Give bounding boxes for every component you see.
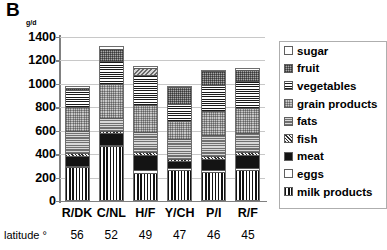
panel-title: B bbox=[6, 0, 20, 20]
legend-item-fish[interactable]: fish bbox=[280, 130, 386, 148]
bar-segment[interactable] bbox=[100, 147, 123, 200]
bar-segment[interactable] bbox=[134, 133, 157, 154]
legend-item-meat[interactable]: meat bbox=[280, 148, 386, 166]
legend-item-eggs[interactable]: eggs bbox=[280, 165, 386, 183]
bar-segment[interactable] bbox=[202, 136, 225, 157]
legend-swatch-icon bbox=[284, 81, 293, 90]
chart-panel: B g/d 0200400600800100012001400 R/DKC/NL… bbox=[0, 0, 387, 250]
bar-segment[interactable] bbox=[236, 134, 259, 153]
latitude-value: 56 bbox=[60, 229, 94, 242]
x-axis-label-r-dk: R/DK bbox=[60, 206, 94, 220]
y-axis-tick bbox=[56, 154, 60, 155]
latitude-row: latitude ° 565249474645 bbox=[0, 228, 268, 244]
legend-label: meat bbox=[297, 150, 324, 162]
legend-swatch-icon bbox=[284, 117, 293, 126]
bar-segment[interactable] bbox=[168, 105, 191, 122]
y-axis-tick-label: 1200 bbox=[28, 54, 56, 66]
bar-segment[interactable] bbox=[236, 71, 259, 82]
y-axis-tick-label: 600 bbox=[35, 125, 56, 137]
y-axis-unit-label: g/d bbox=[26, 19, 37, 26]
bar-segment[interactable] bbox=[168, 88, 191, 104]
latitude-value: 46 bbox=[197, 229, 231, 242]
bar-segment[interactable] bbox=[168, 162, 191, 169]
stacked-bar[interactable] bbox=[133, 66, 158, 201]
gridline bbox=[60, 37, 265, 38]
bar-segment[interactable] bbox=[66, 168, 89, 200]
x-axis-label-p-i: P/I bbox=[197, 206, 231, 220]
bar-segment[interactable] bbox=[100, 85, 123, 119]
chart-legend: sugarfruitvegetablesgrain productsfatsfi… bbox=[279, 41, 387, 209]
bar-segment[interactable] bbox=[134, 174, 157, 200]
bar-segment[interactable] bbox=[134, 156, 157, 171]
y-axis-tick bbox=[56, 60, 60, 61]
bar-segment[interactable] bbox=[168, 140, 191, 159]
latitude-row-label: latitude ° bbox=[4, 229, 47, 242]
y-axis-tick bbox=[56, 131, 60, 132]
bar-segment[interactable] bbox=[66, 91, 89, 107]
bar-segment[interactable] bbox=[236, 156, 259, 169]
gridline bbox=[60, 178, 265, 179]
legend-label: sugar bbox=[297, 45, 328, 57]
legend-item-veg[interactable]: vegetables bbox=[280, 77, 386, 95]
bar-segment[interactable] bbox=[134, 106, 157, 132]
bar-segment[interactable] bbox=[134, 76, 157, 106]
bar-segment[interactable] bbox=[66, 108, 89, 132]
legend-item-sugar[interactable]: sugar bbox=[280, 42, 386, 60]
gridline bbox=[60, 60, 265, 61]
gridline bbox=[60, 107, 265, 108]
bar-segment[interactable] bbox=[202, 160, 225, 171]
latitude-value: 45 bbox=[231, 229, 265, 242]
stacked-bar[interactable] bbox=[201, 70, 226, 201]
latitude-value: 49 bbox=[128, 229, 162, 242]
bar-segment[interactable] bbox=[168, 171, 191, 200]
legend-swatch-icon bbox=[284, 152, 293, 161]
legend-label: vegetables bbox=[297, 80, 356, 92]
y-axis-tick bbox=[56, 201, 60, 202]
bar-segment[interactable] bbox=[202, 86, 225, 112]
x-axis-label-c-nl: C/NL bbox=[94, 206, 128, 220]
gridline bbox=[60, 131, 265, 132]
legend-label: eggs bbox=[297, 168, 324, 180]
stacked-bar[interactable] bbox=[99, 46, 124, 201]
legend-swatch-icon bbox=[284, 64, 293, 73]
legend-item-fats[interactable]: fats bbox=[280, 112, 386, 130]
bar-segment[interactable] bbox=[202, 112, 225, 137]
bar-segment[interactable] bbox=[100, 134, 123, 145]
bar-segment[interactable] bbox=[66, 157, 89, 167]
legend-item-grain[interactable]: grain products bbox=[280, 95, 386, 113]
bar-segment[interactable] bbox=[236, 109, 259, 134]
legend-swatch-icon bbox=[284, 187, 293, 196]
legend-swatch-icon bbox=[284, 46, 293, 55]
bar-segment[interactable] bbox=[100, 50, 123, 63]
bar-segment[interactable] bbox=[134, 69, 157, 77]
legend-item-fruit[interactable]: fruit bbox=[280, 60, 386, 78]
bar-segment[interactable] bbox=[100, 62, 123, 85]
stacked-bar[interactable] bbox=[167, 86, 192, 201]
y-axis-tick bbox=[56, 107, 60, 108]
bar-segment[interactable] bbox=[236, 82, 259, 109]
legend-label: milk products bbox=[297, 186, 372, 198]
bar-segment[interactable] bbox=[66, 132, 89, 155]
bar-segment[interactable] bbox=[202, 72, 225, 85]
x-axis-label-r-f: R/F bbox=[231, 206, 265, 220]
y-axis-tick-labels: 0200400600800100012001400 bbox=[0, 37, 56, 201]
x-axis-category-labels: R/DKC/NLH/FY/CHP/IR/F bbox=[60, 206, 265, 224]
plot-area bbox=[60, 37, 265, 201]
legend-label: fish bbox=[297, 133, 317, 145]
stacked-bar[interactable] bbox=[235, 68, 260, 201]
legend-swatch-icon bbox=[284, 169, 293, 178]
y-axis-tick-label: 200 bbox=[35, 172, 56, 184]
legend-item-milk[interactable]: milk products bbox=[280, 183, 386, 201]
bar-segment[interactable] bbox=[236, 171, 259, 200]
legend-swatch-icon bbox=[284, 134, 293, 143]
stacked-bar[interactable] bbox=[65, 86, 90, 201]
bar-segment[interactable] bbox=[202, 173, 225, 200]
y-axis-tick bbox=[56, 178, 60, 179]
bar-segment[interactable] bbox=[100, 119, 123, 132]
latitude-value: 47 bbox=[163, 229, 197, 242]
gridline bbox=[60, 84, 265, 85]
bar-segment[interactable] bbox=[168, 122, 191, 141]
legend-label: fats bbox=[297, 115, 317, 127]
latitude-value: 52 bbox=[94, 229, 128, 242]
y-axis-tick-label: 1000 bbox=[28, 78, 56, 90]
